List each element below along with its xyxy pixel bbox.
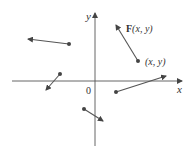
origin-label: 0 bbox=[86, 85, 91, 96]
x-axis-label: x bbox=[176, 83, 182, 95]
vector-line bbox=[28, 39, 69, 44]
diagram-svg: y x 0 F(x, y) (x, y) bbox=[0, 0, 193, 154]
vector-line bbox=[46, 74, 60, 90]
vector-arrow bbox=[114, 76, 166, 94]
vector-F-args: (x, y) bbox=[132, 23, 153, 35]
point-label: (x, y) bbox=[145, 56, 166, 68]
vector-tail-dot bbox=[114, 90, 118, 94]
y-axis-label: y bbox=[85, 10, 91, 22]
vector-F-label: F(x, y) bbox=[126, 23, 153, 35]
vector-tail-dot bbox=[136, 59, 140, 63]
vector-tail-dot bbox=[67, 42, 71, 46]
vector-line bbox=[84, 109, 103, 121]
vector-line bbox=[116, 76, 166, 92]
vector-tail-dot bbox=[58, 72, 62, 76]
vector-field-diagram: y x 0 F(x, y) (x, y) bbox=[0, 0, 193, 154]
vector-arrows bbox=[28, 25, 166, 121]
vector-tail-dot bbox=[82, 107, 86, 111]
vector-arrow bbox=[28, 39, 71, 46]
vector-arrow bbox=[82, 107, 103, 121]
